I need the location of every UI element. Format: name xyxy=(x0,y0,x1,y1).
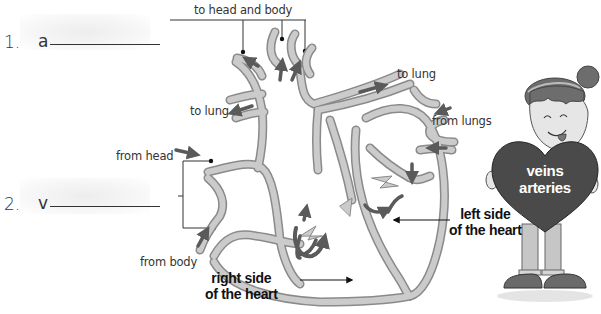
label-to-lung-left: to lung xyxy=(190,104,229,118)
label-from-body: from body xyxy=(140,255,197,269)
label-from-lungs: from lungs xyxy=(432,114,491,128)
leader-lines-top xyxy=(170,20,306,52)
label-left-side-of-heart: left side of the heart xyxy=(449,206,522,238)
label-right-side-of-heart: right side of the heart xyxy=(205,270,278,302)
label-to-head-and-body: to head and body xyxy=(194,3,292,17)
word-veins[interactable]: veins xyxy=(512,162,578,179)
heart-sign-text: veins arteries xyxy=(512,162,578,196)
label-from-head: from head xyxy=(116,149,173,163)
heart-diagram xyxy=(0,0,601,314)
label-to-lung-right: to lung xyxy=(397,67,436,81)
word-arteries[interactable]: arteries xyxy=(512,179,578,196)
